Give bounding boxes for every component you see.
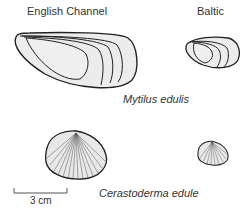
scale-bar (14, 188, 67, 193)
cockle-large-icon (46, 131, 107, 179)
cockle-small-icon (198, 141, 228, 165)
mussel-large-icon (15, 33, 137, 88)
mussel-small-icon (186, 37, 240, 68)
shell-illustrations (0, 0, 249, 219)
